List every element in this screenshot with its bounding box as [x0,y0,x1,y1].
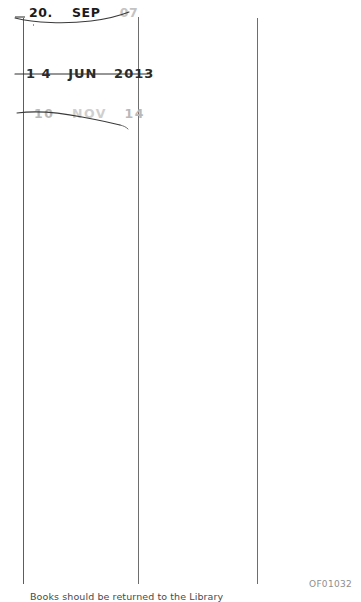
date-stamp-2: 1 4 JUN 2013 [26,66,154,81]
date-stamp-1-year: 07 [120,5,138,20]
column-rule-right [257,18,258,584]
date-stamp-3-year: 14 [125,106,145,121]
column-rule-left [23,18,24,584]
date-stamp-2-day: 1 4 [26,66,52,81]
footer-instruction-text: Books should be returned to the Library [30,591,292,602]
date-stamp-3-month: NOV [72,106,107,121]
date-stamp-2-year: 2013 [114,66,154,81]
date-stamp-3-day: 10 [34,106,54,121]
date-stamp-1: 20. SEP 07 [29,5,138,20]
date-stamp-3: 10 NOV 14 [34,106,145,121]
archival-reference-code: OF01032 [309,579,352,589]
column-rule-middle [138,17,139,584]
date-stamp-2-month: JUN [68,66,97,81]
date-stamp-1-month: SEP [72,5,100,20]
date-due-slip-page: 20. SEP 07 1 4 JUN 2013 10 NOV 14 Books … [0,0,361,602]
pencil-speck [33,24,34,26]
date-stamp-1-day: 20. [29,5,53,20]
